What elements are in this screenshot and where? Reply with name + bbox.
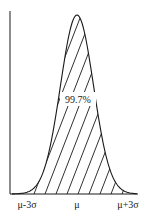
tick-label-mu-minus-3sigma: μ-3σ <box>17 199 37 210</box>
normal-distribution-chart: 99.7% μ-3σ μ μ+3σ <box>0 0 152 217</box>
area-percent-label: 99.7% <box>65 94 91 105</box>
tick-label-mu-plus-3sigma: μ+3σ <box>117 199 139 210</box>
tick-label-mu: μ <box>74 199 79 210</box>
